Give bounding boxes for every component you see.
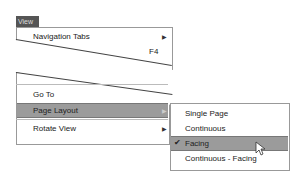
- checkmark-icon: ✔: [174, 138, 181, 147]
- submenu-item-continuous-facing[interactable]: Continuous - Facing: [185, 154, 257, 163]
- menu-item-navigation-tabs[interactable]: Navigation Tabs: [33, 32, 90, 41]
- submenu-arrow-icon: ▶: [162, 125, 167, 132]
- submenu-arrow-icon: ▶: [162, 107, 167, 114]
- menu-item-rotate-view[interactable]: Rotate View: [33, 124, 76, 133]
- menu-divider: [16, 119, 168, 120]
- submenu-item-continuous[interactable]: Continuous: [185, 124, 225, 133]
- view-menu-tab[interactable]: View: [16, 16, 39, 27]
- menu-item-page-layout[interactable]: Page Layout: [33, 106, 78, 115]
- menu-divider: [16, 84, 168, 85]
- submenu-item-single-page[interactable]: Single Page: [185, 109, 228, 118]
- menu-item-shortcut: F4: [149, 47, 158, 56]
- mouse-cursor-icon: [255, 141, 267, 157]
- submenu-arrow-icon: ▶: [162, 33, 167, 40]
- menu-item-go-to[interactable]: Go To: [33, 90, 54, 99]
- submenu-item-facing[interactable]: Facing: [185, 139, 209, 148]
